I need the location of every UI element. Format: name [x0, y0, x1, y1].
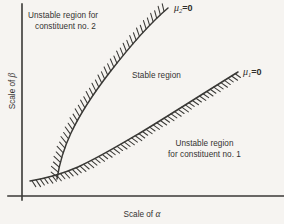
stability-diagram: Unstable region for constituent no. 2 St…	[0, 0, 284, 224]
curve-mu2	[57, 8, 168, 179]
mu2-equals: =0	[182, 3, 192, 13]
axis-group	[8, 4, 284, 200]
curve-mu1-group	[30, 72, 240, 187]
curve-label-mu2: μ2=0	[174, 2, 193, 14]
curve-mu1	[30, 72, 238, 181]
region-label-unstable-1-line2: for constituent no. 1	[168, 150, 241, 161]
region-label-unstable-1-line1: Unstable region	[168, 139, 241, 150]
region-label-unstable-2-line1: Unstable region for	[28, 11, 98, 20]
y-axis-label-symbol: β	[7, 73, 17, 78]
x-axis-label: Scale of α	[92, 209, 192, 219]
diagram-canvas	[0, 0, 284, 224]
region-label-unstable-constituent-1: Unstable region for constituent no. 1	[168, 139, 241, 160]
region-label-unstable-constituent-2: Unstable region for constituent no. 2	[28, 11, 98, 32]
curve-label-mu1: μ1=0	[243, 66, 262, 78]
region-label-stable: Stable region	[132, 71, 181, 82]
region-label-stable-line1: Stable region	[132, 71, 181, 80]
y-axis-label: Scale of β	[7, 61, 17, 121]
region-label-unstable-2-line2: constituent no. 2	[28, 22, 98, 33]
x-axis-label-symbol: α	[155, 209, 160, 219]
mu1-equals: =0	[251, 67, 261, 77]
x-axis-label-prefix: Scale of	[124, 210, 156, 219]
y-axis-label-prefix: Scale of	[8, 77, 17, 109]
